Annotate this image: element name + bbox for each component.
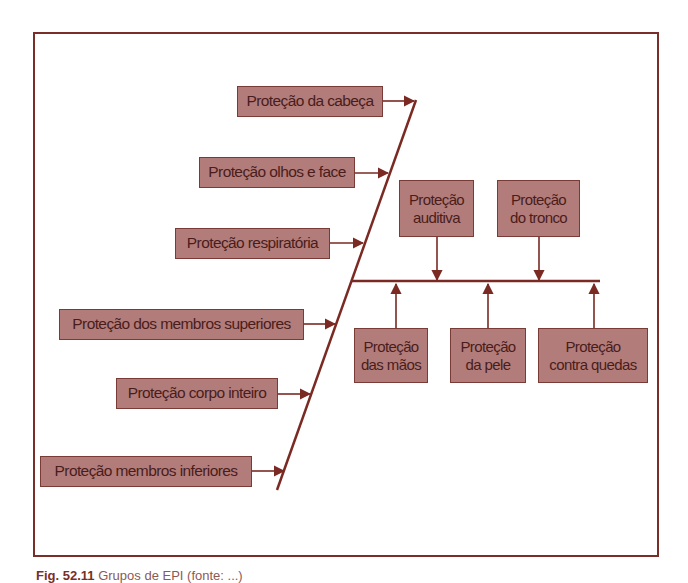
box-protecao-corpo-inteiro: Proteção corpo inteiro <box>116 378 278 409</box>
box-label-line2: auditiva <box>413 209 460 227</box>
box-label-line2: contra quedas <box>549 356 636 374</box>
box-label: Proteção dos membros superiores <box>72 316 290 332</box>
box-label-line1: Proteção <box>460 338 515 356</box>
box-protecao-membros-superiores: Proteção dos membros superiores <box>59 309 304 340</box>
box-protecao-olhos-face: Proteção olhos e face <box>199 157 355 188</box>
box-label-line2: da pele <box>465 356 510 374</box>
box-protecao-pele: Proteção da pele <box>450 328 526 383</box>
figure-caption-text: Grupos de EPI (fonte: ...) <box>98 568 243 583</box>
box-protecao-cabeca: Proteção da cabeça <box>237 86 383 117</box>
box-label: Proteção membros inferiores <box>55 463 238 479</box>
box-label-line1: Proteção <box>409 191 464 209</box>
figure-caption: Fig. 52.11 Grupos de EPI (fonte: ...) <box>36 568 243 583</box>
box-protecao-quedas: Proteção contra quedas <box>538 328 648 383</box>
box-protecao-tronco: Proteção do tronco <box>497 180 580 237</box>
box-protecao-maos: Proteção das mãos <box>354 328 428 383</box>
box-label-line1: Proteção <box>363 338 418 356</box>
box-protecao-respiratoria: Proteção respiratória <box>175 228 330 259</box>
box-label: Proteção olhos e face <box>208 164 345 180</box>
box-protecao-auditiva: Proteção auditiva <box>399 180 474 237</box>
box-protecao-membros-inferiores: Proteção membros inferiores <box>40 456 252 487</box>
box-label-line2: do tronco <box>510 209 567 227</box>
box-label: Proteção da cabeça <box>246 93 373 109</box>
figure-number: Fig. 52.11 <box>36 568 95 583</box>
box-label: Proteção corpo inteiro <box>128 385 266 401</box>
box-label-line1: Proteção <box>511 191 566 209</box>
box-label: Proteção respiratória <box>187 235 318 251</box>
box-label-line1: Proteção <box>565 338 620 356</box>
box-label-line2: das mãos <box>361 356 421 374</box>
